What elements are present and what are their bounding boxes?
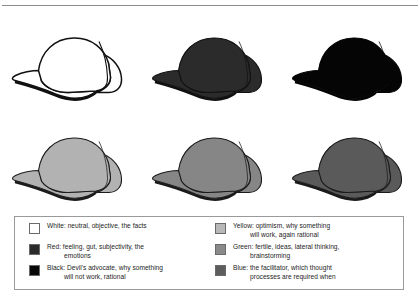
swatch-white — [29, 223, 40, 234]
swatch-green — [215, 244, 226, 255]
legend-item: White: neutral, objective, the facts — [29, 222, 215, 240]
legend-item-text: White: neutral, objective, the facts — [47, 222, 147, 231]
cap-green — [140, 108, 280, 208]
cap-black — [280, 8, 420, 108]
legend-line-1: Black: Devil's advocate, why something — [47, 264, 163, 273]
six-thinking-hats-figure: White: neutral, objective, the factsRed:… — [0, 0, 420, 304]
legend-item-text: Yellow: optimism, why somethingwill work… — [233, 222, 330, 239]
legend-box: White: neutral, objective, the factsRed:… — [14, 216, 404, 290]
swatch-red — [29, 244, 40, 255]
legend-item-text: Blue: the facilitator, which thoughtproc… — [233, 264, 336, 281]
legend-line-1: White: neutral, objective, the facts — [47, 222, 147, 231]
legend-line-2: will work, again rational — [233, 231, 330, 240]
legend-item-text: Green: fertile, ideas, lateral thinking,… — [233, 243, 339, 260]
legend-item-text: Red: feeling, gut, subjectivity, theemot… — [47, 243, 144, 260]
cap-white — [0, 8, 140, 108]
cap-yellow — [0, 108, 140, 208]
legend-item: Red: feeling, gut, subjectivity, theemot… — [29, 243, 215, 261]
legend-line-1: Green: fertile, ideas, lateral thinking, — [233, 243, 339, 252]
swatch-black — [29, 265, 40, 276]
legend-item-text: Black: Devil's advocate, why somethingwi… — [47, 264, 163, 281]
legend-line-1: Yellow: optimism, why something — [233, 222, 330, 231]
legend-column-left: White: neutral, objective, the factsRed:… — [29, 222, 215, 285]
legend-item: Green: fertile, ideas, lateral thinking,… — [215, 243, 401, 261]
top-divider-rule — [2, 5, 418, 6]
legend-line-2: emotions — [47, 252, 144, 261]
legend-item: Black: Devil's advocate, why somethingwi… — [29, 264, 215, 282]
legend-line-2: will not work, rational — [47, 273, 163, 282]
cap-blue — [280, 108, 420, 208]
legend-line-1: Blue: the facilitator, which thought — [233, 264, 336, 273]
caps-grid — [0, 8, 420, 208]
legend-line-2: processes are required when — [233, 273, 336, 282]
legend-item: Yellow: optimism, why somethingwill work… — [215, 222, 401, 240]
legend-line-1: Red: feeling, gut, subjectivity, the — [47, 243, 144, 252]
legend-column-right: Yellow: optimism, why somethingwill work… — [215, 222, 401, 285]
swatch-blue — [215, 265, 226, 276]
legend-line-2: brainstorming — [233, 252, 339, 261]
cap-red — [140, 8, 280, 108]
swatch-yellow — [215, 223, 226, 234]
legend-item: Blue: the facilitator, which thoughtproc… — [215, 264, 401, 282]
